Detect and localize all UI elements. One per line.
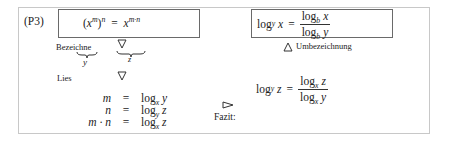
power-rule-formula: (xm)n = xm·n [83,17,140,29]
equation-row: m · n = logx z [65,116,167,128]
down-triangle-icon-2 [117,71,127,81]
change-of-base-box: logy x = logb x logb y [251,9,393,38]
brace-z-label: z [128,55,131,64]
lies-label: Lies [57,73,72,83]
change-of-base-formula: logy x = logb x logb y [257,11,330,37]
conclusion-formula: logy z = logx z logx y [256,76,328,102]
equation-block: m = logx y n = logy z m · n = logx z [65,92,167,128]
fazit-label: Fazit: [214,112,236,122]
power-rule-box: (xm)n = xm·n [58,9,200,38]
up-triangle-icon [283,42,293,52]
right-triangle-icon [222,101,234,109]
equation-row: n = logy z [65,104,167,116]
equation-row: m = logx y [65,92,167,104]
brace-y-label: y [83,57,87,67]
property-label: (P3) [24,15,44,27]
down-triangle-icon [117,39,127,49]
underbrace-y-icon [76,51,98,59]
umbezeichnung-label: Umbezeichnung [296,41,352,51]
